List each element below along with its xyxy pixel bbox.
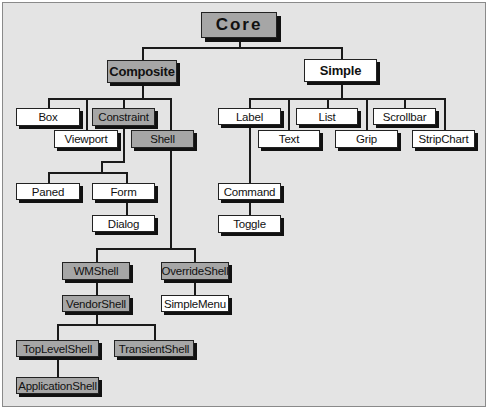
node-box: Box — [16, 108, 80, 126]
node-grip: Grip — [335, 130, 398, 148]
node-label: Label — [218, 108, 281, 125]
node-toplevelshell: TopLevelShell — [16, 340, 99, 357]
connector — [96, 280, 98, 295]
node-overrideshell: OverrideShell — [161, 262, 229, 280]
connector — [249, 200, 251, 215]
node-list: List — [296, 108, 358, 125]
node-applicationshell: ApplicationShell — [16, 377, 99, 394]
connector — [86, 98, 88, 130]
connector — [170, 98, 172, 130]
node-vendorshell: VendorShell — [62, 295, 130, 312]
node-text: Text — [258, 130, 320, 148]
connector — [57, 357, 59, 377]
connector — [96, 248, 98, 262]
connector — [142, 47, 144, 60]
connector — [57, 324, 59, 340]
node-toggle: Toggle — [218, 215, 281, 233]
connector — [154, 324, 156, 340]
node-simple: Simple — [304, 59, 377, 82]
connector — [96, 248, 196, 250]
node-shell: Shell — [131, 130, 194, 148]
connector — [123, 98, 125, 108]
connector — [101, 161, 125, 163]
connector — [126, 200, 128, 215]
node-composite: Composite — [107, 60, 177, 83]
connector — [170, 148, 172, 249]
connector — [142, 47, 343, 49]
connector — [48, 98, 172, 100]
node-core: Core — [201, 12, 277, 38]
connector — [327, 98, 329, 108]
node-wmshell: WMShell — [62, 262, 130, 280]
connector — [48, 98, 50, 108]
connector — [249, 125, 251, 183]
node-transientshell: TransientShell — [114, 340, 194, 357]
connector — [48, 172, 128, 174]
node-form: Form — [92, 183, 155, 200]
connector — [288, 98, 290, 130]
node-stripchart: StripChart — [412, 130, 475, 148]
node-command: Command — [218, 183, 281, 200]
connector — [57, 324, 156, 326]
connector — [249, 98, 446, 100]
node-simplemenu: SimpleMenu — [161, 295, 229, 312]
connector — [404, 98, 406, 108]
connector — [123, 126, 125, 163]
node-scrollbar: Scrollbar — [373, 108, 436, 125]
connector — [249, 98, 251, 108]
node-dialog: Dialog — [92, 215, 155, 232]
connector — [194, 248, 196, 262]
node-paned: Paned — [16, 183, 80, 200]
connector — [126, 172, 128, 183]
connector — [341, 82, 343, 99]
node-viewport: Viewport — [54, 130, 118, 148]
connector — [366, 98, 368, 130]
connector — [142, 83, 144, 99]
connector — [48, 172, 50, 183]
connector — [444, 98, 446, 130]
node-constraint: Constraint — [92, 108, 155, 126]
connector — [194, 280, 196, 295]
